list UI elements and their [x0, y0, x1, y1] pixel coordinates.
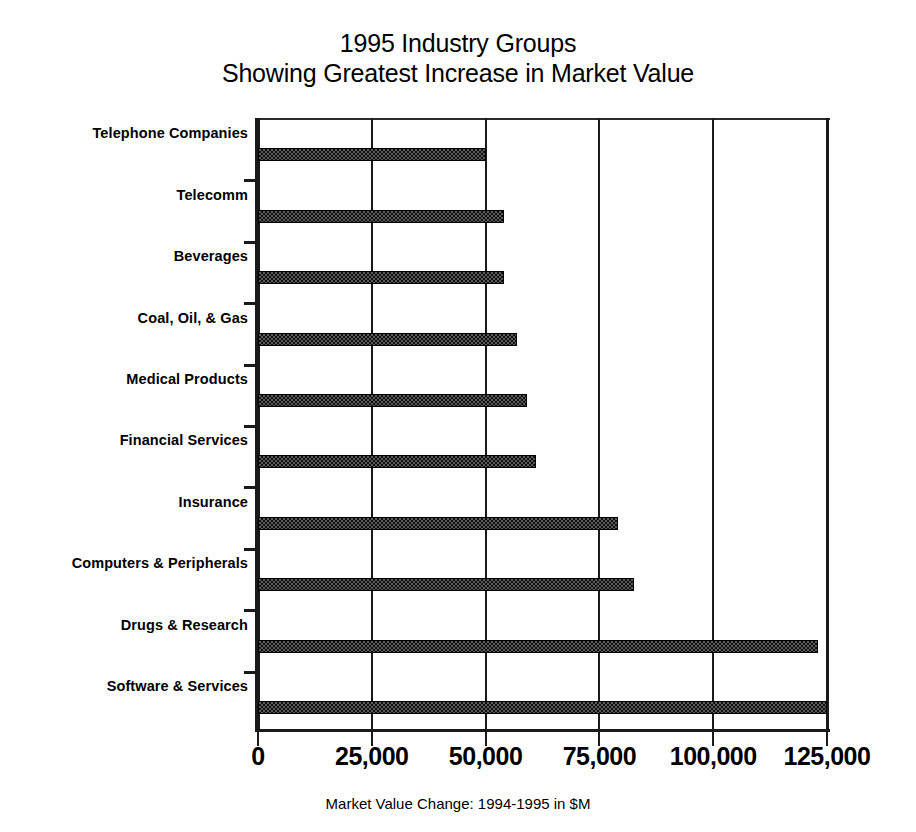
category-tick-1	[244, 179, 256, 182]
x-tick-label-125000: 125,000	[784, 742, 871, 771]
chart-title-line-2: Showing Greatest Increase in Market Valu…	[0, 58, 916, 88]
x-axis-title: Market Value Change: 1994-1995 in $M	[0, 795, 916, 812]
plot-top-border	[255, 118, 830, 120]
bar[interactable]	[258, 640, 818, 653]
bar[interactable]	[258, 271, 504, 284]
x-tick-label-0: 0	[251, 742, 264, 771]
gridline-125000	[826, 118, 829, 732]
y-axis-label-telephone-companies: Telephone Companies	[8, 125, 248, 141]
y-axis-label-financial-services: Financial Services	[8, 432, 248, 448]
y-axis-category-labels: Telephone CompaniesTelecommBeveragesCoal…	[0, 118, 248, 732]
y-axis-label-drugs-research: Drugs & Research	[8, 617, 248, 633]
bar[interactable]	[258, 210, 504, 223]
category-tick-4	[244, 364, 256, 367]
y-axis-label-computers-peripherals: Computers & Peripherals	[8, 555, 248, 571]
category-tick-3	[244, 302, 256, 305]
category-tick-9	[244, 671, 256, 674]
x-tick-label-50000: 50,000	[449, 742, 522, 771]
category-tick-7	[244, 548, 256, 551]
bar[interactable]	[258, 455, 536, 468]
x-axis-tick-labels: 025,00050,00075,000100,000125,000	[0, 742, 916, 778]
category-tick-2	[244, 241, 256, 244]
chart-title: 1995 Industry Groups Showing Greatest In…	[0, 28, 916, 88]
bar[interactable]	[258, 148, 486, 161]
bar[interactable]	[258, 578, 634, 591]
category-tick-5	[244, 425, 256, 428]
x-axis-line	[255, 729, 830, 732]
bar[interactable]	[258, 394, 527, 407]
y-axis-label-medical-products: Medical Products	[8, 371, 248, 387]
bar[interactable]	[258, 517, 618, 530]
category-tick-6	[244, 486, 256, 489]
chart-title-line-1: 1995 Industry Groups	[0, 28, 916, 58]
y-axis-label-software-services: Software & Services	[8, 678, 248, 694]
x-tick-label-100000: 100,000	[670, 742, 757, 771]
x-tick-label-25000: 25,000	[335, 742, 408, 771]
category-tick-8	[244, 609, 256, 612]
y-axis-label-insurance: Insurance	[8, 494, 248, 510]
x-tick-label-75000: 75,000	[563, 742, 636, 771]
bar[interactable]	[258, 333, 517, 346]
bar[interactable]	[258, 701, 827, 714]
y-axis-label-telecomm: Telecomm	[8, 187, 248, 203]
plot-area	[258, 118, 827, 732]
y-axis-label-coal-oil-gas: Coal, Oil, & Gas	[8, 310, 248, 326]
y-axis-label-beverages: Beverages	[8, 248, 248, 264]
